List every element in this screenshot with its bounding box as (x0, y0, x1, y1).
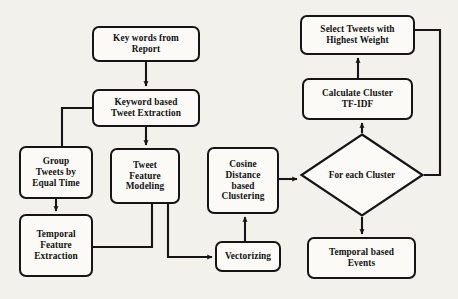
node-label-line: Temporal based (327, 247, 396, 258)
edge-modeling-to-temporal (93, 204, 152, 247)
node-vectorizing[interactable]: Vectorizing (215, 241, 281, 272)
node-label-line: Report (111, 44, 181, 55)
node-temporal-based-events[interactable]: Temporal based Events (307, 237, 416, 279)
node-label-line: Key words from (111, 33, 181, 44)
node-label-line: Vectorizing (223, 251, 273, 262)
node-label-line: Tweet Extraction (109, 108, 183, 119)
node-label-line: Feature (124, 171, 167, 182)
node-label-line: Events (327, 258, 396, 269)
node-label-line: Tweet (124, 160, 167, 171)
node-temporal-feature-extraction[interactable]: Temporal Feature Extraction (19, 214, 93, 277)
node-label-line: Cosine (220, 159, 267, 170)
node-key-words-from-report[interactable]: Key words from Report (92, 26, 200, 62)
node-label-line: Keyword based (109, 97, 183, 108)
node-cosine-distance-based-clustering[interactable]: Cosine Distance based Clustering (207, 147, 279, 214)
node-label-line: TF-IDF (320, 99, 395, 110)
node-label-line: Distance (220, 170, 267, 181)
edge-extraction-to-group (62, 108, 92, 146)
node-label-line: based (220, 181, 267, 192)
node-label-line: Highest Weight (318, 35, 396, 46)
edge-modeling-to-vectorizing (168, 204, 212, 257)
node-select-tweets-with-highest-weight[interactable]: Select Tweets with Highest Weight (300, 15, 415, 55)
node-group-tweets-by-equal-time[interactable]: Group Tweets by Equal Time (19, 146, 93, 199)
node-label-line: Equal Time (30, 178, 81, 189)
node-for-each-cluster-decision[interactable]: For each Cluster (300, 133, 424, 217)
node-calculate-cluster-tfidf[interactable]: Calculate Cluster TF-IDF (302, 78, 413, 120)
node-label-line: Feature (32, 240, 79, 251)
node-label-line: Tweets by (30, 167, 81, 178)
node-label-line: Temporal (32, 229, 79, 240)
node-label-line: Clustering (220, 191, 267, 202)
node-label-line: Modeling (124, 181, 167, 192)
diamond-shape (300, 133, 424, 217)
flowchart-canvas: Key words from Report Keyword based Twee… (0, 0, 458, 299)
node-label-line: Select Tweets with (318, 24, 396, 35)
node-label-line: Extraction (32, 251, 79, 262)
node-keyword-based-tweet-extraction[interactable]: Keyword based Tweet Extraction (92, 89, 200, 127)
node-label-line: Group (30, 156, 81, 167)
node-label-line: Calculate Cluster (320, 88, 395, 99)
node-tweet-feature-modeling[interactable]: Tweet Feature Modeling (110, 148, 180, 204)
